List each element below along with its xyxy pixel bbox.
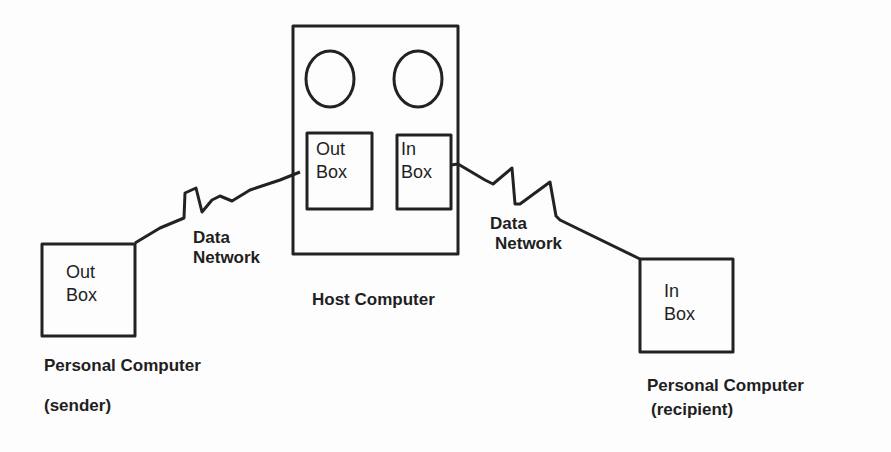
sender-pc-label: Personal Computer xyxy=(44,356,201,376)
right-network-label: Data Network xyxy=(490,214,562,254)
host-outbox-label-line1: Out xyxy=(316,138,347,161)
host-inbox-label-line1: In xyxy=(401,138,432,161)
host-inbox-label-line2: Box xyxy=(401,161,432,184)
sender-pc-sublabel: (sender) xyxy=(44,396,111,416)
sender-outbox-label: Out Box xyxy=(66,261,97,307)
host-disk-right-icon xyxy=(394,51,442,107)
left-network-label: Data Network xyxy=(193,228,260,268)
host-outbox-label: Out Box xyxy=(316,138,347,184)
recipient-pc-sublabel: (recipient) xyxy=(651,400,733,420)
recipient-inbox-label-line2: Box xyxy=(664,303,695,326)
host-inbox-label: In Box xyxy=(401,138,432,184)
right-network-label-line1: Data xyxy=(490,214,562,234)
recipient-inbox-label: In Box xyxy=(664,280,695,326)
host-outbox-label-line2: Box xyxy=(316,161,347,184)
left-network-label-line1: Data xyxy=(193,228,260,248)
host-disk-left-icon xyxy=(306,51,354,107)
email-flow-diagram: Out Box In Box Host Computer Out Box Per… xyxy=(0,0,891,452)
right-network-label-line2: Network xyxy=(495,234,562,254)
host-computer-label: Host Computer xyxy=(312,290,435,310)
sender-outbox-label-line2: Box xyxy=(66,284,97,307)
sender-outbox-label-line1: Out xyxy=(66,261,97,284)
left-network-label-line2: Network xyxy=(193,248,260,268)
recipient-pc-label: Personal Computer xyxy=(647,376,804,396)
recipient-inbox-label-line1: In xyxy=(664,280,695,303)
